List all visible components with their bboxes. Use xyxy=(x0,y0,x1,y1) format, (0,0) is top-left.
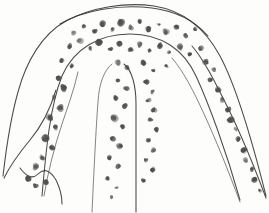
sketch-canvas xyxy=(0,0,269,213)
paper-background xyxy=(0,0,269,213)
sketch-drawing xyxy=(0,0,269,213)
